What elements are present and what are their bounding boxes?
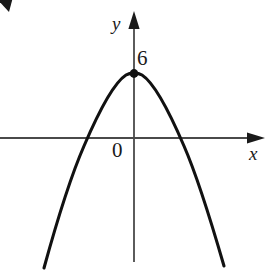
y-axis-arrow-icon [128,11,139,29]
vertex-point-marker [130,69,139,78]
x-axis-label: x [249,144,257,163]
y-axis-label: y [112,14,120,33]
origin-label: 0 [112,140,123,161]
x-axis-arrow-icon [247,133,265,144]
parabola-figure: y x 6 0 [0,0,268,272]
plot-canvas [0,0,268,272]
corner-artifact-mark [0,0,16,14]
y-intercept-value-label: 6 [137,48,148,69]
